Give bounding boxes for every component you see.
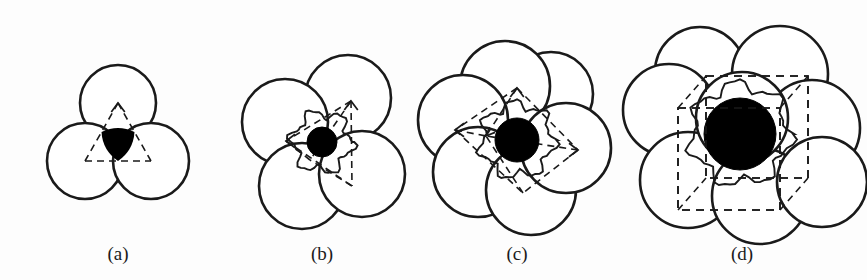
polyhedron-edge-1: [351, 101, 352, 186]
panel-label-b: (b): [292, 243, 352, 265]
panel-label-d: (d): [712, 243, 772, 265]
panel-c-octahedral: [418, 41, 611, 235]
central-cation-sphere: [307, 127, 337, 157]
anion-circle-6: [777, 137, 867, 227]
coordination-figure: [0, 0, 867, 280]
central-cation-sphere: [495, 118, 539, 162]
panel-d-cubic: [623, 26, 867, 244]
panel-label-c: (c): [487, 243, 547, 265]
panel-a-triangular: [47, 65, 189, 199]
panel-label-a: (a): [88, 243, 148, 265]
panel-b-tetrahedral: [242, 55, 405, 229]
figure-root: (a) (b) (c) (d): [0, 0, 867, 280]
